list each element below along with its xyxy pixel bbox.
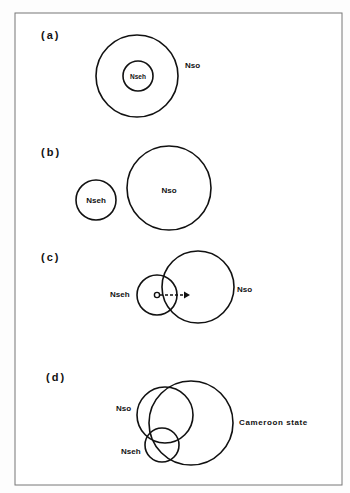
cameroon-state-label: Cameroon state xyxy=(239,418,308,427)
figure: (a) Nseh Nso (b) Nseh Nso (c) Nseh Nso (… xyxy=(0,0,350,493)
nso-label: Nso xyxy=(185,61,200,70)
panel-label: (c) xyxy=(41,251,60,263)
nseh-label: Nseh xyxy=(86,196,106,205)
nseh-label: Nseh xyxy=(121,447,141,456)
panel-label: (b) xyxy=(41,146,61,158)
panel-label: (a) xyxy=(41,29,60,41)
nso-label: Nso xyxy=(237,285,252,294)
nso-label: Nso xyxy=(161,186,176,195)
nso-label: Nso xyxy=(116,404,131,413)
nseh-label: Nseh xyxy=(110,290,130,299)
figure-frame xyxy=(15,13,342,485)
nseh-label: Nseh xyxy=(130,73,146,80)
panel-label: (d) xyxy=(46,371,66,383)
